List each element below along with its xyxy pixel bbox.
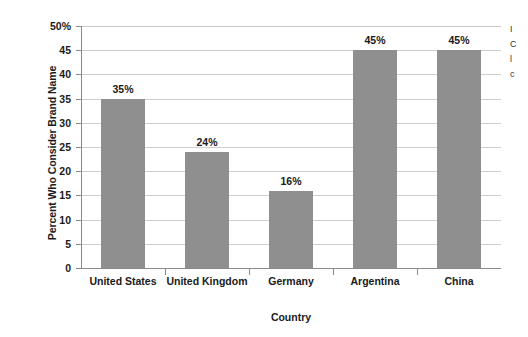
y-axis-tick-label: 5	[11, 238, 71, 250]
bar	[353, 50, 397, 268]
bar-value-label: 35%	[93, 83, 153, 95]
y-axis-tick-label: 50%	[11, 20, 71, 32]
clipped-edge-text-line: c	[510, 67, 528, 82]
bar-value-label: 45%	[345, 34, 405, 46]
clipped-edge-text-line: I	[510, 22, 528, 37]
y-axis-tick-label: 25	[11, 141, 71, 153]
y-axis-tick-label: 30	[11, 117, 71, 129]
clipped-edge-text: IClc	[510, 22, 528, 82]
bar-chart-figure: Percent Who Consider Brand Name 05101520…	[0, 0, 528, 337]
bar	[101, 99, 145, 268]
bar	[437, 50, 481, 268]
y-axis-tick-label: 35	[11, 93, 71, 105]
bar-value-label: 24%	[177, 136, 237, 148]
y-axis-tick-label: 10	[11, 214, 71, 226]
plot-top-border	[81, 26, 501, 27]
y-axis-tick-label: 0	[11, 262, 71, 274]
x-axis-category-label: China	[417, 275, 501, 288]
y-axis-tick-labels: 05101520253035404550%	[11, 26, 71, 268]
y-axis-tick-label: 40	[11, 68, 71, 80]
x-axis-spine	[81, 268, 501, 269]
x-axis-title: Country	[81, 311, 501, 323]
bar	[185, 152, 229, 268]
clipped-edge-text-line: l	[510, 52, 528, 67]
x-axis-category-label: Germany	[249, 275, 333, 288]
y-axis-tick-label: 45	[11, 44, 71, 56]
y-axis-tick-label: 15	[11, 189, 71, 201]
x-axis-category-label: United Kingdom	[165, 275, 249, 288]
y-axis-tick-label: 20	[11, 165, 71, 177]
x-axis-category-labels: United StatesUnited KingdomGermanyArgent…	[81, 275, 501, 315]
bar	[269, 191, 313, 268]
clipped-edge-text-line: C	[510, 37, 528, 52]
plot-area: 35%24%16%45%45%	[81, 26, 501, 268]
y-axis-spine	[81, 26, 82, 269]
bar-value-label: 45%	[429, 34, 489, 46]
bar-value-label: 16%	[261, 175, 321, 187]
x-axis-category-label: Argentina	[333, 275, 417, 288]
x-axis-category-label: United States	[81, 275, 165, 288]
